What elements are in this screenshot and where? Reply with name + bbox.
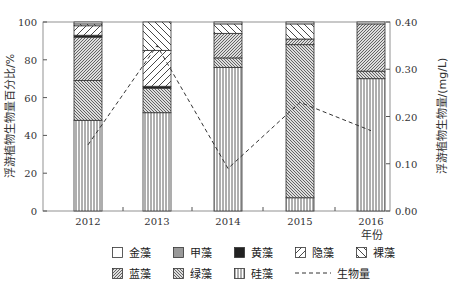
bar-segment (74, 26, 102, 35)
legend-item: 硅藻 (234, 265, 273, 281)
x-tick: 2014 (215, 216, 240, 227)
pattern-swatch (234, 247, 245, 258)
pattern-swatch (112, 247, 123, 258)
y-axis-label-left: 浮游植物生物量百分比/% (3, 54, 17, 178)
bar-segment (214, 24, 242, 33)
y-tick-right: 0.30 (395, 64, 417, 75)
legend-row-2: 蓝藻 绿藻 硅藻生物量 (112, 265, 392, 281)
y-tick-left: 60 (24, 93, 37, 104)
legend-label: 生物量 (337, 265, 370, 281)
pattern-swatch (173, 247, 184, 258)
bar-segment (214, 58, 242, 67)
legend-label: 隐藻 (312, 244, 334, 260)
legend-label: 金藻 (129, 244, 151, 260)
bar-segment (143, 88, 171, 113)
chart: 0204060801000.000.100.200.300.40 2012201… (0, 0, 460, 244)
bar-segment (357, 24, 385, 71)
bar-segment (143, 113, 171, 211)
bar-segment (286, 198, 314, 211)
bar-segment (214, 22, 242, 24)
dashed-line-swatch (295, 268, 331, 278)
legend-item: 黄藻 (234, 244, 273, 260)
pattern-swatch (173, 268, 184, 279)
bar-segment (357, 79, 385, 211)
legend-row-1: 金藻 甲藻 黄藻 隐藻 裸藻 (112, 244, 417, 260)
legend-label: 绿藻 (190, 265, 212, 281)
bar-segment (74, 22, 102, 24)
legend-item: 隐藻 (295, 244, 334, 260)
bar-segment (286, 45, 314, 198)
bar-segment (74, 120, 102, 211)
bar-segment (74, 81, 102, 121)
legend-item: 金藻 (112, 244, 151, 260)
y-tick-right: 0.20 (395, 112, 417, 123)
x-tick: 2015 (287, 216, 312, 227)
y-tick-right: 0.10 (395, 159, 417, 170)
bar-segment (74, 37, 102, 80)
y-tick-left: 100 (18, 17, 37, 28)
bar-segment (357, 71, 385, 79)
y-tick-left: 0 (31, 206, 37, 217)
pattern-swatch (112, 268, 123, 279)
y-tick-right: 0.40 (395, 17, 417, 28)
legend-item: 绿藻 (173, 265, 212, 281)
x-tick: 2013 (144, 216, 169, 227)
bar-segment (286, 22, 314, 24)
legend-item: 裸藻 (356, 244, 395, 260)
y-tick-left: 80 (24, 55, 37, 66)
legend-item: 甲藻 (173, 244, 212, 260)
y-axis-label-right: 浮游植物生物量/(mg/L) (435, 58, 449, 175)
pattern-swatch (295, 247, 306, 258)
pattern-swatch (356, 247, 367, 258)
legend-label: 蓝藻 (129, 265, 151, 281)
bar-segment (357, 22, 385, 24)
legend-item: 生物量 (295, 265, 370, 281)
bar-segment (286, 39, 314, 45)
bar-segment (214, 33, 242, 58)
x-axis-label: 年份 (361, 228, 383, 242)
bar-segment (214, 67, 242, 211)
bar-segment (286, 24, 314, 39)
bar-segment (143, 50, 171, 86)
y-tick-left: 20 (24, 168, 37, 179)
legend-label: 甲藻 (190, 244, 212, 260)
pattern-swatch (234, 268, 245, 279)
legend-label: 裸藻 (373, 244, 395, 260)
legend-item: 蓝藻 (112, 265, 151, 281)
y-tick-left: 40 (24, 130, 37, 141)
x-tick: 2012 (75, 216, 100, 227)
legend-label: 硅藻 (251, 265, 273, 281)
legend-label: 黄藻 (251, 244, 273, 260)
x-tick: 2016 (358, 216, 383, 227)
